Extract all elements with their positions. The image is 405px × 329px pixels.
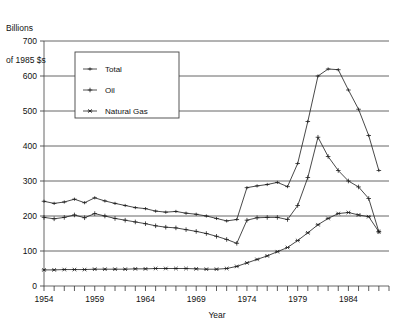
- y-tick-label: 400: [23, 141, 37, 151]
- x-axis-title: Year: [208, 310, 225, 320]
- x-tick-label: 1964: [136, 294, 155, 304]
- x-tick-label: 1984: [339, 294, 358, 304]
- x-tick-label: 1959: [85, 294, 104, 304]
- series-line-natural-gas: [44, 213, 379, 270]
- y-axis-label-line2: of 1985 $s: [6, 55, 46, 66]
- energy-expenditures-line-chart: Billions of 1985 $s 01002003004005006007…: [0, 0, 405, 329]
- y-tick-label: 200: [23, 211, 37, 221]
- y-tick-label: 0: [32, 281, 37, 291]
- legend-item-label: Total: [105, 65, 122, 74]
- plot-area: 0100200300400500600700 19541959196419691…: [0, 0, 405, 329]
- y-tick-label: 100: [23, 246, 37, 256]
- y-axis-label-line1: Billions: [6, 23, 46, 34]
- legend-item-label: Oil: [105, 86, 115, 95]
- x-tick-label: 1974: [237, 294, 256, 304]
- x-tick-group: 1954195919641969197419791984: [35, 286, 389, 304]
- x-tick-label: 1954: [35, 294, 54, 304]
- x-tick-label: 1969: [187, 294, 206, 304]
- x-tick-label: 1979: [288, 294, 307, 304]
- series-markers-oil: [42, 135, 381, 246]
- series-markers-natural-gas: [42, 211, 381, 272]
- chart-legend: TotalOilNatural Gas: [75, 52, 179, 118]
- series-line-oil: [44, 137, 379, 243]
- legend-item-label: Natural Gas: [105, 107, 148, 116]
- y-tick-label: 300: [23, 176, 37, 186]
- y-tick-label: 500: [23, 106, 37, 116]
- y-axis-label: Billions of 1985 $s: [6, 2, 46, 86]
